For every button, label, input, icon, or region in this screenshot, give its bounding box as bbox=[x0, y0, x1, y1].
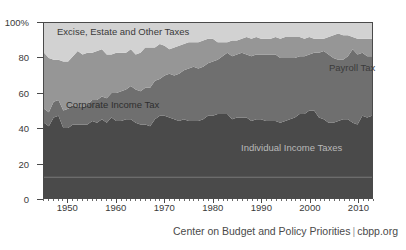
x-tick-label-1970: 1970 bbox=[154, 202, 175, 213]
x-tick-minor-1958 bbox=[106, 199, 107, 201]
x-tick-minor-1965 bbox=[140, 199, 141, 201]
x-tick-minor-2006 bbox=[339, 199, 340, 201]
x-tick-minor-1996 bbox=[291, 199, 292, 201]
x-tick-minor-1989 bbox=[257, 199, 258, 201]
x-tick-minor-1951 bbox=[72, 199, 73, 201]
y-tick-label-40: 40 bbox=[0, 123, 29, 134]
x-tick-minor-1994 bbox=[281, 199, 282, 201]
x-tick-mark-1970 bbox=[164, 199, 165, 203]
x-tick-mark-1980 bbox=[213, 199, 214, 203]
x-tick-minor-1968 bbox=[155, 199, 156, 201]
x-tick-mark-2000 bbox=[310, 199, 311, 203]
caption-website: cbpp.org bbox=[357, 225, 398, 237]
x-tick-minor-1953 bbox=[82, 199, 83, 201]
individual-label: Individual Income Taxes bbox=[241, 142, 342, 153]
y-tick-label-80: 80 bbox=[0, 52, 29, 63]
x-tick-minor-1992 bbox=[271, 199, 272, 201]
x-tick-minor-1979 bbox=[208, 199, 209, 201]
x-tick-minor-1974 bbox=[184, 199, 185, 201]
x-tick-minor-1945 bbox=[43, 199, 44, 201]
x-tick-minor-2008 bbox=[349, 199, 350, 201]
x-tick-minor-1997 bbox=[295, 199, 296, 201]
caption-organization: Center on Budget and Policy Priorities bbox=[173, 225, 350, 237]
x-tick-minor-2007 bbox=[344, 199, 345, 201]
x-tick-minor-1952 bbox=[77, 199, 78, 201]
x-tick-minor-1948 bbox=[58, 199, 59, 201]
x-tick-minor-2009 bbox=[354, 199, 355, 201]
x-tick-minor-1984 bbox=[232, 199, 233, 201]
x-tick-minor-1976 bbox=[193, 199, 194, 201]
x-tick-minor-1977 bbox=[198, 199, 199, 201]
caption: Center on Budget and Policy Priorities|c… bbox=[0, 225, 398, 237]
x-tick-mark-1990 bbox=[261, 199, 262, 203]
x-tick-label-1960: 1960 bbox=[105, 202, 126, 213]
x-tick-minor-1971 bbox=[169, 199, 170, 201]
x-tick-minor-1987 bbox=[247, 199, 248, 201]
x-tick-label-2010: 2010 bbox=[348, 202, 369, 213]
x-tick-minor-2001 bbox=[315, 199, 316, 201]
x-tick-minor-1955 bbox=[92, 199, 93, 201]
x-tick-minor-1961 bbox=[121, 199, 122, 201]
x-tick-minor-1981 bbox=[218, 199, 219, 201]
x-tick-minor-1999 bbox=[305, 199, 306, 201]
x-tick-minor-1966 bbox=[145, 199, 146, 201]
x-tick-minor-1973 bbox=[179, 199, 180, 201]
corporate-label: Corporate Income Tax bbox=[66, 99, 159, 110]
x-tick-minor-1947 bbox=[53, 199, 54, 201]
x-tick-minor-2002 bbox=[320, 199, 321, 201]
x-tick-minor-2011 bbox=[363, 199, 364, 201]
x-tick-minor-1982 bbox=[223, 199, 224, 201]
x-tick-minor-1949 bbox=[62, 199, 63, 201]
x-tick-minor-1956 bbox=[96, 199, 97, 201]
x-tick-minor-1978 bbox=[203, 199, 204, 201]
chart-figure: 020406080100% 19501960197019801990200020… bbox=[0, 0, 406, 250]
x-tick-label-1990: 1990 bbox=[251, 202, 272, 213]
x-tick-minor-1985 bbox=[237, 199, 238, 201]
area-series-group bbox=[44, 23, 372, 198]
x-tick-minor-1963 bbox=[130, 199, 131, 201]
payroll-label: Payroll Tax bbox=[329, 62, 375, 73]
x-tick-minor-1975 bbox=[189, 199, 190, 201]
x-tick-minor-1993 bbox=[276, 199, 277, 201]
plot-area bbox=[43, 22, 373, 199]
x-tick-label-1950: 1950 bbox=[57, 202, 78, 213]
x-tick-minor-1959 bbox=[111, 199, 112, 201]
y-tick-label-0: 0 bbox=[0, 194, 29, 205]
x-tick-minor-1995 bbox=[286, 199, 287, 201]
x-tick-minor-1954 bbox=[87, 199, 88, 201]
x-tick-minor-1964 bbox=[135, 199, 136, 201]
x-tick-minor-2012 bbox=[368, 199, 369, 201]
x-tick-minor-1986 bbox=[242, 199, 243, 201]
y-tick-label-60: 60 bbox=[0, 87, 29, 98]
x-tick-mark-1950 bbox=[67, 199, 68, 203]
x-tick-mark-2010 bbox=[358, 199, 359, 203]
x-tick-minor-1962 bbox=[126, 199, 127, 201]
x-tick-minor-1972 bbox=[174, 199, 175, 201]
area-individual-income-taxes bbox=[44, 111, 372, 199]
x-tick-mark-1960 bbox=[116, 199, 117, 203]
x-tick-minor-2013 bbox=[373, 199, 374, 201]
y-tick-label-100: 100% bbox=[0, 17, 29, 28]
x-tick-label-2000: 2000 bbox=[299, 202, 320, 213]
x-tick-minor-2005 bbox=[334, 199, 335, 201]
excise-label: Excise, Estate and Other Taxes bbox=[57, 26, 189, 37]
x-tick-minor-1988 bbox=[252, 199, 253, 201]
x-tick-minor-1991 bbox=[266, 199, 267, 201]
x-tick-minor-1983 bbox=[227, 199, 228, 201]
x-tick-minor-1957 bbox=[101, 199, 102, 201]
x-tick-minor-1946 bbox=[48, 199, 49, 201]
x-tick-minor-1967 bbox=[150, 199, 151, 201]
stacked-area-svg bbox=[44, 23, 372, 198]
x-tick-minor-2004 bbox=[329, 199, 330, 201]
y-tick-label-20: 20 bbox=[0, 158, 29, 169]
x-tick-label-1980: 1980 bbox=[202, 202, 223, 213]
x-tick-minor-1969 bbox=[159, 199, 160, 201]
x-tick-minor-2003 bbox=[324, 199, 325, 201]
x-tick-minor-1998 bbox=[300, 199, 301, 201]
